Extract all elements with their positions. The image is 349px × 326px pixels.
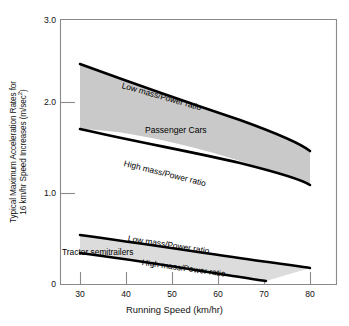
tractor-semitrailers-band-label: Tractor semitrailers (62, 247, 133, 257)
passenger-cars-band-label: Passenger Cars (145, 125, 207, 135)
plot-area (0, 0, 349, 326)
x-axis-title: Running Speed (km/hr) (0, 304, 349, 315)
y-tick-marks (61, 103, 75, 194)
acceleration-rates-chart: Typical Maximum Acceleration Rates for 1… (0, 0, 349, 326)
